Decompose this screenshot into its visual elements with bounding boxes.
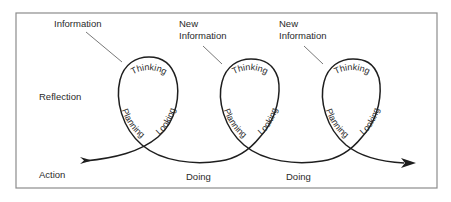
information-label-2: Information [179,30,227,41]
reflection-label: Reflection [39,91,81,102]
doing-label-2: Doing [286,171,311,182]
new-label-3: New [279,18,298,29]
looking-label-1: Looking [154,107,177,137]
experiential-learning-diagram: Information New Information New Informat… [0,0,451,202]
information-label-3: Information [279,30,327,41]
looking-label-2: Looking [256,107,279,137]
start-arrowhead-icon [80,157,92,164]
thinking-label-1: Thinking [129,62,168,77]
information-label-1: Information [54,18,102,29]
thinking-label-2: Thinking [230,62,269,76]
action-label: Action [39,169,65,180]
doing-label-1: Doing [186,171,211,182]
new-label-2: New [179,18,198,29]
information-leader-line-3 [304,46,323,64]
information-leader-line-1 [86,32,122,62]
planning-label-1: Planning [120,107,147,140]
looking-label-3: Looking [358,107,381,137]
planning-label-2: Planning [222,107,249,140]
planning-label-3: Planning [324,107,351,140]
information-leader-line-2 [203,46,222,64]
thinking-label-3: Thinking [332,62,371,76]
